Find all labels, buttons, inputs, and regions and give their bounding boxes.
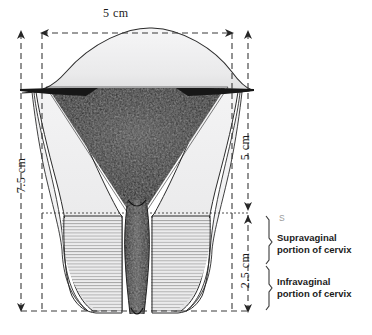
uterus-illustration bbox=[20, 28, 254, 316]
annotation-supravaginal-portion: Supravaginal portion of cervix bbox=[277, 232, 351, 255]
marker-s-label: S bbox=[279, 213, 285, 223]
annotation-infravaginal-line2: portion of cervix bbox=[277, 288, 351, 300]
annotation-supravaginal-line1: Supravaginal bbox=[277, 232, 351, 244]
annotation-supravaginal-line2: portion of cervix bbox=[277, 244, 351, 256]
annotation-infravaginal-line1: Infravaginal bbox=[277, 276, 351, 288]
arrow-cervix-top bbox=[244, 215, 252, 224]
brace-supravaginal bbox=[266, 216, 272, 264]
dimension-label-cervix-height: 2.5 cm bbox=[238, 241, 253, 301]
uterus-dimension-diagram: 5 cm 7.5 cm 5 cm 2.5 cm S Supravaginal p… bbox=[0, 0, 372, 335]
dimension-label-body-height: 5 cm bbox=[238, 122, 253, 174]
brace-infravaginal bbox=[266, 266, 272, 310]
annotation-infravaginal-portion: Infravaginal portion of cervix bbox=[277, 276, 351, 299]
dimension-label-total-height: 7.5 cm bbox=[14, 150, 29, 202]
label-braces bbox=[266, 216, 272, 310]
fundus-dome bbox=[22, 28, 252, 93]
dimension-label-width: 5 cm bbox=[103, 6, 129, 21]
